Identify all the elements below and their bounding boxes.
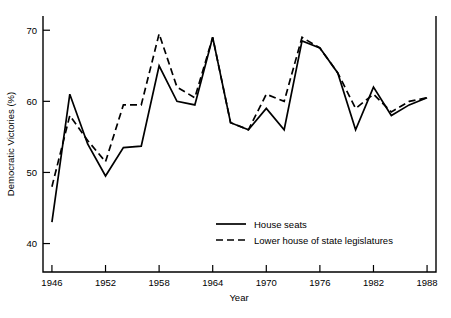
- chart-figure: 40506070 1946195219581964197019761982198…: [0, 0, 451, 318]
- x-tick-label: 1952: [95, 277, 116, 288]
- x-axis-title: Year: [229, 292, 248, 303]
- x-axis-ticks: [52, 265, 427, 272]
- x-tick-label: 1946: [41, 277, 62, 288]
- series-line-0: [52, 37, 427, 222]
- x-axis-tick-labels: 19461952195819641970197619821988: [41, 277, 437, 288]
- x-tick-label: 1982: [363, 277, 384, 288]
- x-tick-label: 1976: [309, 277, 330, 288]
- y-tick-label: 70: [26, 25, 37, 36]
- y-tick-label: 60: [26, 96, 37, 107]
- chart-series-group: [52, 34, 427, 222]
- y-axis-tick-labels: 40506070: [26, 25, 37, 249]
- line-chart: 40506070 1946195219581964197019761982198…: [0, 0, 451, 318]
- legend-label-0: House seats: [254, 219, 307, 230]
- series-line-1: [52, 34, 427, 187]
- x-tick-label: 1970: [256, 277, 277, 288]
- x-tick-label: 1964: [202, 277, 223, 288]
- y-tick-label: 40: [26, 238, 37, 249]
- y-tick-label: 50: [26, 167, 37, 178]
- legend-label-1: Lower house of state legislatures: [254, 235, 393, 246]
- chart-legend: House seatsLower house of state legislat…: [216, 219, 393, 246]
- x-tick-label: 1988: [416, 277, 437, 288]
- y-axis-title: Democratic Victories (%): [5, 92, 16, 196]
- x-tick-label: 1958: [149, 277, 170, 288]
- y-axis-ticks: [43, 30, 50, 243]
